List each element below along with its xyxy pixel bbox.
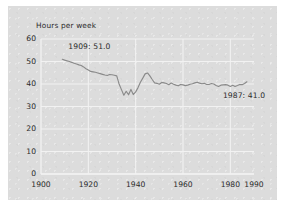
plot-area: [0, 0, 285, 207]
annotation-start: 1909: 51.0: [68, 42, 110, 51]
x-tick-label: 1940: [124, 180, 148, 189]
y-tick-label: 10: [16, 147, 36, 156]
annotation-end: 1987: 41.0: [223, 91, 265, 100]
x-tick-label: 1990: [242, 180, 266, 189]
x-tick-label: 1980: [218, 180, 242, 189]
y-tick-label: 20: [16, 124, 36, 133]
x-tick-label: 1960: [171, 180, 195, 189]
y-tick-label: 60: [16, 34, 36, 43]
y-tick-label: 30: [16, 102, 36, 111]
y-tick-label: 40: [16, 79, 36, 88]
x-tick-label: 1920: [76, 180, 100, 189]
y-tick-label: 0: [16, 169, 36, 178]
data-line-series-0: [62, 59, 247, 95]
chart-figure: Hours per week 0102030405060190019201940…: [0, 0, 285, 207]
y-tick-label: 50: [16, 57, 36, 66]
x-tick-label: 1900: [29, 180, 53, 189]
